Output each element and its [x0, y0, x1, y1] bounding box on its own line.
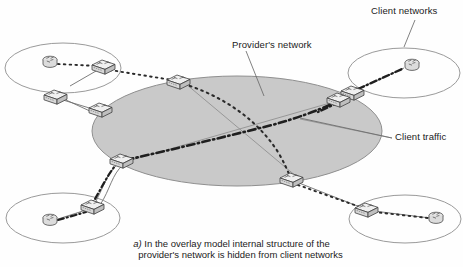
label-provider-network: Provider's network	[232, 39, 312, 50]
client-router-bottom-right[interactable]	[429, 212, 443, 223]
figure-caption: a) In the overlay model internal structu…	[0, 238, 463, 260]
client-network-ellipse-top-right	[348, 48, 460, 98]
label-client-networks: Client networks	[371, 5, 437, 16]
client-router-top-left[interactable]	[43, 56, 57, 67]
client-router-bottom-left[interactable]	[43, 214, 57, 225]
client-network-ellipse-bottom-right	[349, 195, 461, 243]
caption-text-1: In the overlay model internal structure …	[142, 238, 330, 249]
caption-marker: a)	[133, 238, 141, 249]
customer-edge-device-top-left-upper[interactable]	[92, 60, 115, 74]
provider-network-cloud	[92, 76, 382, 186]
label-client-traffic: Client traffic	[395, 131, 446, 142]
caption-line-1: a) In the overlay model internal structu…	[0, 238, 463, 249]
caption-line-2: provider's network is hidden from client…	[18, 249, 463, 260]
client-router-top-right[interactable]	[405, 59, 419, 70]
leader-line-client-networks	[404, 20, 415, 47]
network-diagram-figure: Client networks Provider's network Clien…	[0, 0, 463, 267]
